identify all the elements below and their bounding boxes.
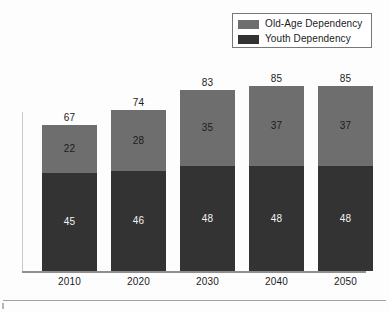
bar-group-2050[interactable]: 85 37 48 — [318, 86, 373, 271]
bar-segment-youth-2020[interactable]: 46 — [111, 171, 166, 271]
bar-segment-youth-2030[interactable]: 48 — [180, 166, 235, 271]
bar-total-label-2040: 85 — [249, 73, 304, 84]
bar-segment-old-age-2010[interactable]: 22 — [42, 125, 97, 173]
bar-stack-2020: 28 46 — [111, 110, 166, 271]
bar-segment-value-old-age-2020: 28 — [133, 136, 145, 146]
bar-group-2020[interactable]: 74 28 46 — [111, 110, 166, 271]
legend-swatch-old-age-icon — [238, 20, 259, 29]
bar-segment-value-youth-2020: 46 — [133, 216, 145, 226]
bar-segment-old-age-2040[interactable]: 37 — [249, 86, 304, 166]
bar-segment-youth-2050[interactable]: 48 — [318, 166, 373, 271]
x-axis-line — [22, 271, 366, 273]
bar-segment-value-youth-2010: 45 — [64, 217, 76, 227]
bar-total-label-2050: 85 — [318, 73, 373, 84]
x-tick-label-2010: 2010 — [42, 276, 97, 287]
bar-segment-value-old-age-2030: 35 — [202, 123, 214, 133]
bar-stack-2050: 37 48 — [318, 86, 373, 271]
x-tick-label-2040: 2040 — [249, 276, 304, 287]
bar-segment-value-youth-2050: 48 — [340, 214, 352, 224]
bar-segment-value-youth-2040: 48 — [271, 214, 283, 224]
bar-segment-old-age-2050[interactable]: 37 — [318, 86, 373, 166]
bar-segment-value-youth-2030: 48 — [202, 214, 214, 224]
bar-stack-2040: 37 48 — [249, 86, 304, 271]
legend-label-youth: Youth Dependency — [265, 34, 351, 44]
x-tick-label-2050: 2050 — [318, 276, 373, 287]
bar-group-2030[interactable]: 83 35 48 — [180, 90, 235, 271]
bar-total-label-2030: 83 — [180, 77, 235, 88]
bar-group-2040[interactable]: 85 37 48 — [249, 86, 304, 271]
bar-series-container: 67 22 45 74 28 46 — [22, 60, 366, 271]
page-separator-rule — [3, 300, 386, 301]
legend-item-old-age-dependency[interactable]: Old-Age Dependency — [238, 17, 367, 31]
legend-label-old-age: Old-Age Dependency — [265, 19, 362, 29]
chart-figure: Old-Age Dependency Youth Dependency 67 2… — [0, 0, 389, 312]
bar-segment-youth-2010[interactable]: 45 — [42, 173, 97, 271]
bar-total-label-2020: 74 — [111, 97, 166, 108]
bar-segment-value-old-age-2050: 37 — [340, 121, 352, 131]
plot-area: 67 22 45 74 28 46 — [22, 60, 366, 273]
bar-segment-old-age-2030[interactable]: 35 — [180, 90, 235, 166]
x-tick-label-2030: 2030 — [180, 276, 235, 287]
bar-segment-value-old-age-2040: 37 — [271, 121, 283, 131]
bar-group-2010[interactable]: 67 22 45 — [42, 125, 97, 271]
x-axis-tick-labels: 2010 2020 2030 2040 2050 — [22, 276, 366, 292]
x-tick-label-2020: 2020 — [111, 276, 166, 287]
bar-segment-value-old-age-2010: 22 — [64, 144, 76, 154]
page-corner-mark — [2, 303, 4, 309]
bar-segment-youth-2040[interactable]: 48 — [249, 166, 304, 271]
legend-swatch-youth-icon — [238, 35, 259, 44]
legend-item-youth-dependency[interactable]: Youth Dependency — [238, 32, 367, 46]
bar-segment-old-age-2020[interactable]: 28 — [111, 110, 166, 171]
bar-stack-2010: 22 45 — [42, 125, 97, 271]
chart-legend: Old-Age Dependency Youth Dependency — [232, 13, 372, 48]
bar-stack-2030: 35 48 — [180, 90, 235, 271]
bar-total-label-2010: 67 — [42, 112, 97, 123]
